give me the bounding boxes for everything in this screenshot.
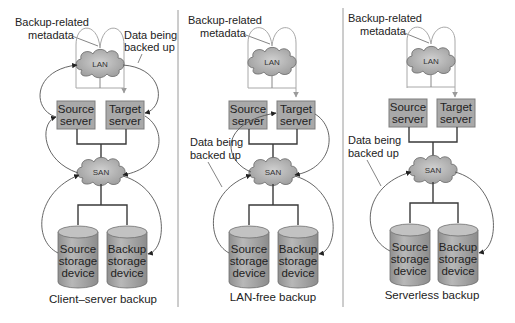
metadata-label: Backup-related [15,16,89,28]
panel-lan-free: Backup-related metadata LAN Source serve… [188,14,333,303]
svg-text:device: device [61,267,94,279]
svg-text:storage: storage [59,255,97,267]
svg-text:storage: storage [108,255,146,267]
svg-text:Target: Target [440,101,473,113]
svg-text:device: device [393,265,426,277]
backup-topologies-diagram: Backup-related metadata Data being backe… [0,0,515,323]
svg-text:storage: storage [230,255,268,267]
svg-text:Source: Source [230,103,266,115]
data-label: Data being [190,136,243,148]
data-label: backed up [190,149,241,161]
data-label: Data being [348,134,401,146]
svg-text:server: server [440,113,472,125]
svg-text:Source: Source [231,243,267,255]
svg-text:Backup: Backup [439,241,477,253]
svg-text:device: device [441,265,474,277]
data-label: backed up [124,41,175,53]
svg-text:Backup: Backup [279,243,317,255]
caption-client-server: Client–server backup [49,293,157,305]
svg-text:device: device [110,267,143,279]
panel-serverless: Backup-related metadata LAN Source serve… [348,12,493,301]
san-label: SAN [93,168,110,177]
svg-text:device: device [281,267,314,279]
svg-text:Source: Source [58,103,94,115]
svg-text:storage: storage [391,253,429,265]
data-label: backed up [348,147,399,159]
lan-label: LAN [423,57,439,66]
source-storage-device: Source storage device [390,224,430,286]
svg-text:Source: Source [390,101,426,113]
data-label: Data being [124,29,177,41]
san-label: SAN [425,166,442,175]
metadata-label: Backup-related [348,12,422,24]
caption-lan-free: LAN-free backup [230,291,316,303]
svg-text:Target: Target [109,103,142,115]
svg-text:Backup: Backup [108,243,146,255]
backup-storage-device: Backup storage device [107,226,147,288]
metadata-label: Backup-related [188,14,262,26]
lan-label: LAN [264,58,280,67]
metadata-label: metadata [28,29,75,41]
metadata-label: metadata [200,27,247,39]
panel-client-server: Backup-related metadata Data being backe… [15,16,177,305]
svg-text:storage: storage [279,255,317,267]
svg-text:server: server [109,115,141,127]
source-storage-device: Source storage device [58,226,98,288]
svg-text:device: device [232,267,265,279]
svg-text:Target: Target [280,103,313,115]
source-storage-device: Source storage device [229,226,269,288]
backup-storage-device: Backup storage device [278,226,318,288]
san-label: SAN [265,168,282,177]
backup-storage-device: Backup storage device [438,224,478,286]
lan-label: LAN [92,60,108,69]
svg-text:Source: Source [392,241,428,253]
caption-serverless: Serverless backup [385,289,480,301]
svg-text:Source: Source [60,243,96,255]
svg-text:server: server [60,115,92,127]
svg-text:storage: storage [439,253,477,265]
metadata-label: metadata [360,25,407,37]
svg-text:server: server [392,113,424,125]
svg-text:server: server [280,115,312,127]
